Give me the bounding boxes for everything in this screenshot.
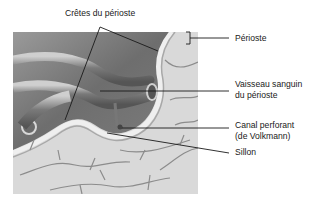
label-perioste: Périoste xyxy=(235,33,267,44)
perforating-canal xyxy=(115,103,117,126)
label-vaisseau-line1: Vaisseau sanguin xyxy=(235,79,302,90)
label-cretes-du-perioste: Crêtes du périoste xyxy=(65,8,135,19)
label-canal-perforant: Canal perforant (de Volkmann) xyxy=(235,120,294,141)
label-canal-line1: Canal perforant xyxy=(235,120,294,131)
label-sillon: Sillon xyxy=(235,147,256,158)
label-vaisseau-line2: du périoste xyxy=(235,90,302,101)
bone-periosteum-illustration xyxy=(0,0,328,204)
label-canal-line2: (de Volkmann) xyxy=(235,131,294,142)
label-vaisseau-sanguin: Vaisseau sanguin du périoste xyxy=(235,79,302,100)
